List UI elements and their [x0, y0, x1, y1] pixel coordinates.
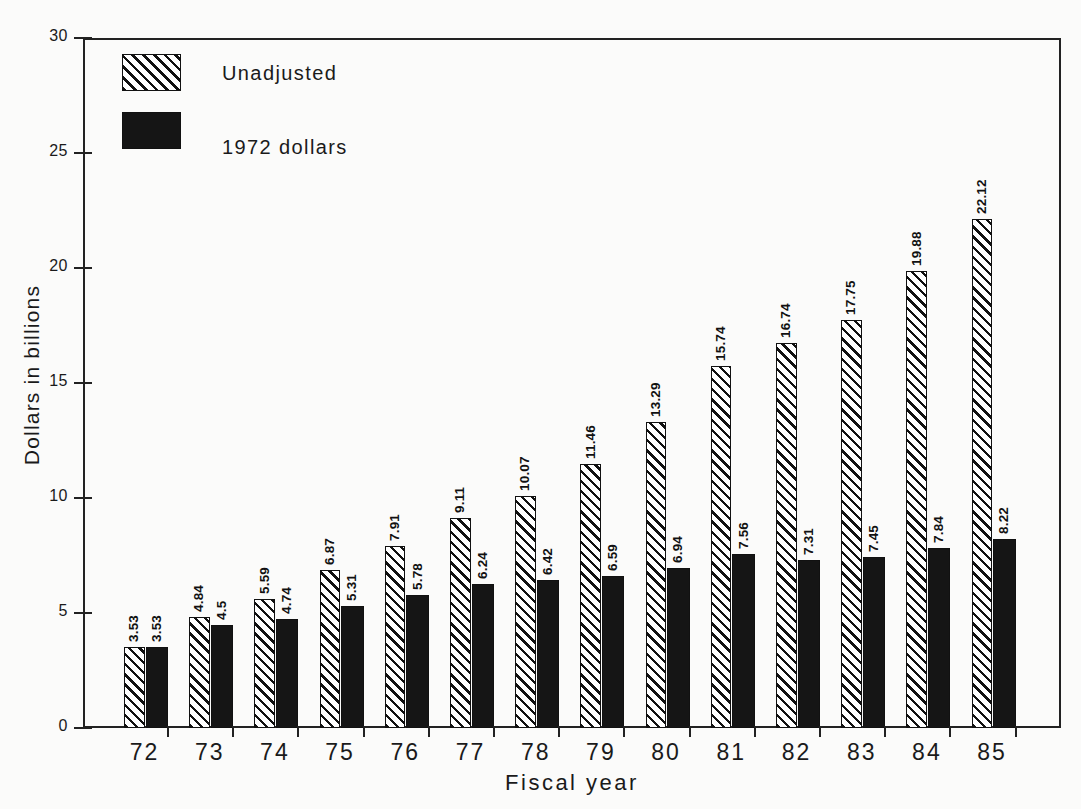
x-tick-label: 78 [506, 739, 566, 766]
bar-1972-dollars: 7.45 [863, 557, 886, 728]
bar-value-label: 6.24 [475, 552, 490, 579]
bar-value-label: 5.78 [410, 563, 425, 590]
bar-value-label: 19.88 [909, 231, 924, 266]
bar-value-label: 3.53 [149, 615, 164, 642]
x-tick-mark [558, 726, 560, 737]
bar-1972-dollars: 5.78 [406, 595, 429, 728]
x-tick-label: 75 [310, 739, 370, 766]
bar-1972-dollars: 7.56 [732, 554, 755, 728]
bar-unadjusted: 11.46 [580, 464, 601, 728]
bar-group: 10.076.42 [515, 38, 556, 728]
bar-1972-dollars: 6.59 [602, 576, 625, 728]
clipped-page-title [0, 0, 1081, 3]
bar-1972-dollars: 7.31 [798, 560, 821, 728]
bar-value-label: 13.29 [648, 383, 663, 418]
bar-group: 19.887.84 [906, 38, 947, 728]
x-tick-label: 73 [180, 739, 240, 766]
x-tick-mark [819, 726, 821, 737]
bar-unadjusted: 16.74 [776, 343, 797, 728]
legend: Unadjusted 1972 dollars [122, 54, 452, 170]
bar-unadjusted: 7.91 [385, 546, 406, 728]
x-tick-mark [754, 726, 756, 737]
x-tick-mark [297, 726, 299, 737]
x-tick-label: 81 [701, 739, 761, 766]
bar-value-label: 4.84 [191, 585, 206, 612]
bar-value-label: 22.12 [974, 179, 989, 214]
bar-unadjusted: 13.29 [646, 422, 667, 728]
x-tick-mark [363, 726, 365, 737]
x-tick-label: 79 [571, 739, 631, 766]
bar-value-label: 15.74 [713, 326, 728, 361]
x-tick-mark [689, 726, 691, 737]
bar-group: 11.466.59 [580, 38, 621, 728]
bar-value-label: 17.75 [843, 280, 858, 315]
bar-group: 9.116.24 [450, 38, 491, 728]
x-tick-label: 85 [962, 739, 1022, 766]
x-tick-label: 77 [441, 739, 501, 766]
bar-1972-dollars: 4.5 [211, 625, 234, 729]
bar-value-label: 16.74 [778, 303, 793, 338]
bar-1972-dollars: 6.24 [472, 584, 495, 728]
legend-swatch-hatch-icon [122, 54, 181, 91]
legend-item-unadjusted: Unadjusted [122, 54, 452, 112]
bar-1972-dollars: 4.74 [276, 619, 299, 728]
bar-value-label: 5.59 [257, 567, 272, 594]
bar-value-label: 6.94 [670, 536, 685, 563]
x-tick-mark [493, 726, 495, 737]
bar-value-label: 7.45 [866, 525, 881, 552]
bar-unadjusted: 6.87 [320, 570, 341, 728]
x-tick-label: 80 [636, 739, 696, 766]
x-tick-mark [884, 726, 886, 737]
bar-value-label: 5.31 [344, 574, 359, 601]
x-tick-label: 82 [767, 739, 827, 766]
bar-group: 17.757.45 [841, 38, 882, 728]
bar-value-label: 4.74 [279, 587, 294, 614]
bar-group: 15.747.56 [711, 38, 752, 728]
bar-group: 13.296.94 [646, 38, 687, 728]
bar-unadjusted: 3.53 [124, 647, 145, 728]
bar-unadjusted: 17.75 [841, 320, 862, 728]
bar-value-label: 7.31 [801, 528, 816, 555]
bar-value-label: 6.42 [540, 548, 555, 575]
bar-unadjusted: 19.88 [906, 271, 927, 728]
y-axis-title: Dollars in billions [20, 115, 44, 635]
bar-value-label: 4.5 [214, 600, 229, 619]
bar-group: 22.128.22 [972, 38, 1013, 728]
bar-unadjusted: 22.12 [972, 219, 993, 728]
legend-swatch-solid-icon [122, 112, 181, 149]
y-tick-label: 30 [34, 27, 68, 45]
bar-1972-dollars: 7.84 [928, 548, 951, 728]
bar-1972-dollars: 5.31 [341, 606, 364, 728]
x-tick-mark [623, 726, 625, 737]
x-axis-title: Fiscal year [83, 770, 1061, 796]
bar-value-label: 7.56 [736, 522, 751, 549]
x-tick-label: 72 [115, 739, 175, 766]
legend-item-1972-dollars: 1972 dollars [122, 112, 452, 170]
x-tick-mark [428, 726, 430, 737]
bar-value-label: 8.22 [996, 507, 1011, 534]
bar-unadjusted: 5.59 [254, 599, 275, 728]
bar-1972-dollars: 6.94 [667, 568, 690, 728]
x-tick-mark [167, 726, 169, 737]
bar-value-label: 7.91 [387, 514, 402, 541]
bar-value-label: 7.84 [931, 516, 946, 543]
bar-1972-dollars: 6.42 [537, 580, 560, 728]
bar-unadjusted: 10.07 [515, 496, 536, 728]
bar-value-label: 6.87 [322, 538, 337, 565]
bar-1972-dollars: 8.22 [993, 539, 1016, 728]
bar-value-label: 3.53 [126, 615, 141, 642]
x-tick-mark [232, 726, 234, 737]
x-tick-mark [1015, 726, 1017, 737]
legend-label-unadjusted: Unadjusted [222, 62, 337, 85]
x-tick-label: 84 [897, 739, 957, 766]
bar-group: 16.747.31 [776, 38, 817, 728]
bar-1972-dollars: 3.53 [146, 647, 169, 728]
y-tick-label: 0 [34, 717, 68, 735]
bar-value-label: 10.07 [517, 457, 532, 492]
x-tick-label: 76 [375, 739, 435, 766]
x-tick-mark [949, 726, 951, 737]
bar-value-label: 6.59 [605, 544, 620, 571]
bar-value-label: 9.11 [452, 487, 467, 513]
x-tick-label: 83 [832, 739, 892, 766]
x-tick-label: 74 [245, 739, 305, 766]
